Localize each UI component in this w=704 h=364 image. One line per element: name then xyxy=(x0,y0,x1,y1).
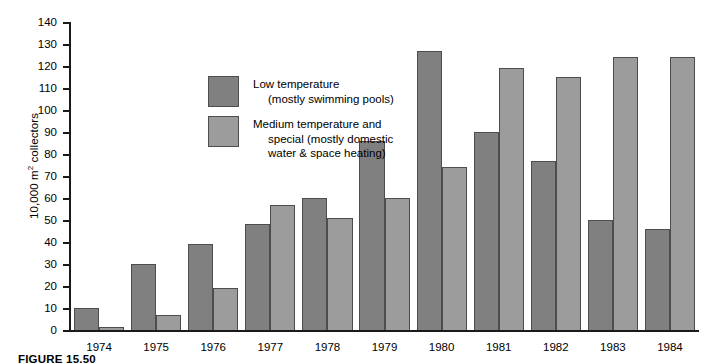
bar-med-1978[interactable] xyxy=(327,218,352,330)
bar-group: 1984 xyxy=(641,22,698,330)
x-axis-tick-label: 1976 xyxy=(185,341,242,353)
x-axis-tick-label: 1983 xyxy=(584,341,641,353)
y-axis-tick xyxy=(63,264,69,266)
legend-label-medium: Medium temperature and special (mostly d… xyxy=(253,116,393,161)
y-axis-tick-label: 130 xyxy=(0,39,57,51)
bar-group: 1977 xyxy=(242,22,299,330)
y-axis-tick xyxy=(63,242,69,244)
y-axis-tick xyxy=(63,44,69,46)
y-axis-tick xyxy=(63,154,69,156)
x-axis-tick-label: 1984 xyxy=(641,341,698,353)
y-axis-tick xyxy=(63,22,69,24)
bar-group: 1979 xyxy=(356,22,413,330)
legend-label-low-line1: Low temperature xyxy=(253,78,339,90)
y-axis-tick-label: 120 xyxy=(0,61,57,73)
y-axis-tick-label: 110 xyxy=(0,83,57,95)
y-axis-tick xyxy=(63,132,69,134)
y-axis-tick xyxy=(63,110,69,112)
bar-low-1974[interactable] xyxy=(74,308,99,330)
bar-med-1974[interactable] xyxy=(99,327,124,330)
y-axis-tick-label: 20 xyxy=(0,281,57,293)
bar-low-1976[interactable] xyxy=(188,244,213,330)
x-axis-tick-label: 1975 xyxy=(128,341,185,353)
y-axis-tick xyxy=(63,198,69,200)
bar-med-1977[interactable] xyxy=(270,205,295,330)
legend-swatch-medium-icon xyxy=(208,116,239,147)
x-axis-tick-label: 1982 xyxy=(527,341,584,353)
x-axis-tick-label: 1981 xyxy=(470,341,527,353)
bar-low-1983[interactable] xyxy=(588,220,613,330)
bar-group: 1983 xyxy=(584,22,641,330)
x-axis-tick-label: 1974 xyxy=(71,341,128,353)
y-axis-tick xyxy=(63,308,69,310)
figure-caption: FIGURE 15.50 xyxy=(18,353,96,364)
legend-label-medium-line3: water & space heating) xyxy=(253,146,393,161)
x-axis-tick-label: 1979 xyxy=(356,341,413,353)
bar-low-1984[interactable] xyxy=(645,229,670,330)
bar-low-1975[interactable] xyxy=(131,264,156,330)
legend-label-medium-line1: Medium temperature and xyxy=(253,118,381,130)
bar-groups: 1974197519761977197819791980198119821983… xyxy=(71,22,699,330)
legend-label-low-line2: (mostly swimming pools) xyxy=(253,92,394,107)
legend-swatch-low-icon xyxy=(208,76,239,107)
bar-group: 1978 xyxy=(299,22,356,330)
bar-low-1978[interactable] xyxy=(302,198,327,330)
y-axis-tick-label: 60 xyxy=(0,193,57,205)
bar-group: 1974 xyxy=(71,22,128,330)
y-axis-tick xyxy=(63,66,69,68)
y-axis-tick-label: 30 xyxy=(0,259,57,271)
bar-group: 1982 xyxy=(527,22,584,330)
bar-group: 1980 xyxy=(413,22,470,330)
y-axis-tick-label: 40 xyxy=(0,237,57,249)
y-axis-label-superscript: 2 xyxy=(26,166,35,171)
y-axis-label: 10,000 m2 collectors xyxy=(28,66,40,266)
chart-legend: Low temperature (mostly swimming pools) … xyxy=(208,76,498,170)
legend-label-medium-line2: special (mostly domestic xyxy=(253,132,393,147)
bar-med-1979[interactable] xyxy=(385,198,410,330)
x-axis-tick-label: 1977 xyxy=(242,341,299,353)
bar-med-1984[interactable] xyxy=(670,57,695,330)
y-axis-tick-label: 100 xyxy=(0,105,57,117)
bar-group: 1981 xyxy=(470,22,527,330)
y-axis-tick xyxy=(63,176,69,178)
y-axis-tick-label: 80 xyxy=(0,149,57,161)
y-axis-tick-label: 140 xyxy=(0,17,57,29)
y-axis-tick-label: 10 xyxy=(0,303,57,315)
bar-med-1975[interactable] xyxy=(156,315,181,330)
y-axis-tick xyxy=(63,330,69,332)
bar-med-1983[interactable] xyxy=(613,57,638,330)
plot-area: 1401301201101009080706050403020100 19741… xyxy=(69,22,699,330)
y-axis-tick-label: 90 xyxy=(0,127,57,139)
y-axis-tick-label: 70 xyxy=(0,171,57,183)
y-axis-tick xyxy=(63,286,69,288)
legend-label-low: Low temperature (mostly swimming pools) xyxy=(253,76,394,106)
y-axis-tick xyxy=(63,88,69,90)
legend-item-medium: Medium temperature and special (mostly d… xyxy=(208,116,498,161)
y-axis-tick xyxy=(63,220,69,222)
bar-low-1977[interactable] xyxy=(245,224,270,330)
x-axis-tick-label: 1980 xyxy=(413,341,470,353)
x-axis-line xyxy=(69,330,699,332)
bar-low-1982[interactable] xyxy=(531,161,556,330)
bar-med-1980[interactable] xyxy=(442,167,467,330)
y-axis-tick-label: 50 xyxy=(0,215,57,227)
legend-item-low: Low temperature (mostly swimming pools) xyxy=(208,76,498,107)
figure-container: 10,000 m2 collectors 1401301201101009080… xyxy=(0,0,704,364)
y-axis-tick-label: 0 xyxy=(0,325,57,337)
bar-group: 1976 xyxy=(185,22,242,330)
bar-med-1981[interactable] xyxy=(499,68,524,330)
x-axis-tick-label: 1978 xyxy=(299,341,356,353)
bar-med-1982[interactable] xyxy=(556,77,581,330)
bar-med-1976[interactable] xyxy=(213,288,238,330)
bar-group: 1975 xyxy=(128,22,185,330)
